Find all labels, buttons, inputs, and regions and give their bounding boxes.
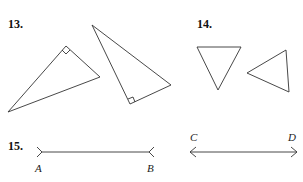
problem-13-label: 13. (8, 18, 23, 30)
figure-drawing (0, 0, 303, 182)
point-d-label: D (288, 132, 296, 143)
point-b-label: B (147, 163, 154, 174)
problem-14-triangle-2 (247, 50, 289, 92)
point-a-label: A (35, 163, 42, 174)
problem-15-label: 15. (8, 140, 23, 152)
problem-14-triangle-1 (197, 47, 241, 90)
segment-ab (37, 147, 154, 157)
problem-13-triangle-1 (8, 46, 100, 112)
geometry-figure: 13. 14. 15. A B C D (0, 0, 303, 182)
problem-13-triangle-2 (92, 25, 171, 104)
point-c-label: C (190, 132, 197, 143)
right-angle-mark (62, 50, 70, 54)
line-cd (190, 147, 297, 157)
problem-14-label: 14. (197, 18, 212, 30)
